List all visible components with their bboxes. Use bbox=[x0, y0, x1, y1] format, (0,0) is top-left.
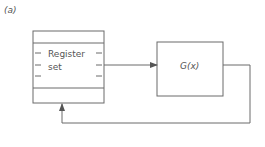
figure-label: (a) bbox=[4, 5, 17, 15]
feedback-arrow bbox=[62, 65, 250, 123]
register-label-line1: Register bbox=[48, 49, 85, 59]
diagram-canvas: (a) Register set G(x) bbox=[0, 0, 265, 147]
register-label-line2: set bbox=[48, 62, 62, 72]
function-label: G(x) bbox=[180, 61, 199, 71]
register-box-outline bbox=[33, 31, 104, 103]
register-set-box: Register set bbox=[33, 31, 104, 103]
function-g-box: G(x) bbox=[157, 42, 223, 96]
